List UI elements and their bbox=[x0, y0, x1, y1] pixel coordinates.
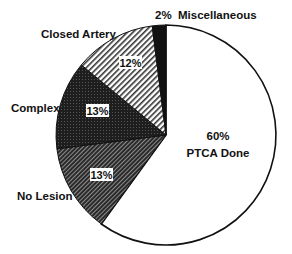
complex-label: Complex bbox=[11, 102, 60, 114]
closed-artery-pct-label: 12% bbox=[119, 56, 142, 69]
svg-text:13%: 13% bbox=[90, 169, 112, 181]
no-lesion-pct-label: 13% bbox=[90, 168, 113, 181]
svg-text:13%: 13% bbox=[86, 105, 108, 117]
svg-text:12%: 12% bbox=[119, 57, 141, 69]
pie-chart: 12% 13% 13% 2% Miscellaneous Closed Arte… bbox=[0, 0, 292, 254]
complex-pct-label: 13% bbox=[86, 104, 109, 117]
ptca-done-label: PTCA Done bbox=[187, 147, 250, 159]
no-lesion-label: No Lesion bbox=[17, 190, 73, 202]
ptca-pct-label: 60% bbox=[206, 130, 229, 142]
closed-artery-label: Closed Artery bbox=[41, 28, 117, 40]
miscellaneous-label: 2% Miscellaneous bbox=[155, 9, 257, 21]
